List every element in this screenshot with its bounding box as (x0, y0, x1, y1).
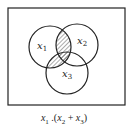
label-x1: x1 (37, 40, 47, 53)
shaded-region (46, 24, 98, 94)
caption-expression: x1 .(x2 + x3) (0, 112, 128, 126)
label-x2: x2 (77, 35, 87, 48)
label-x3: x3 (62, 68, 72, 81)
